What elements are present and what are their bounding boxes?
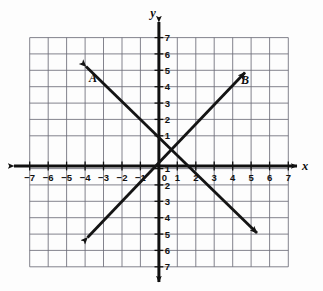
y-tick-label: 2 (165, 114, 170, 125)
x-tick-label: 5 (248, 172, 254, 183)
x-tick-label: 4 (230, 172, 236, 183)
x-tick-label: 6 (267, 172, 272, 183)
x-tick-label: −2 (117, 172, 128, 183)
y-axis-label: y (148, 6, 156, 20)
x-tick-label: −3 (98, 172, 109, 183)
x-tick-label: −7 (24, 172, 35, 183)
y-tick-label: 6 (165, 245, 170, 256)
y-tick-label: 1 (165, 130, 171, 141)
y-tick-label: 6 (165, 49, 170, 60)
x-tick-label: −4 (80, 172, 92, 183)
line-b-label: B (240, 73, 249, 87)
x-tick-label: 7 (286, 172, 291, 183)
x-tick-label: −5 (61, 172, 73, 183)
y-tick-label: 7 (165, 261, 170, 272)
line-a-label: A (88, 71, 97, 85)
y-tick-label: 2 (165, 180, 170, 191)
x-axis-label: x (301, 159, 308, 173)
x-tick-label: −6 (43, 172, 54, 183)
y-tick-label: 5 (165, 229, 171, 240)
graph-canvas: −7 −6 −5 −4 −3 −2 −1 1 2 3 4 5 6 7 0 7 6… (0, 0, 323, 291)
x-tick-label: 1 (175, 172, 181, 183)
y-tick-label: 7 (165, 32, 170, 43)
y-tick-label: 4 (165, 81, 171, 92)
y-tick-label: 1 (165, 163, 171, 174)
y-tick-label: 4 (165, 212, 171, 223)
x-tick-label: 3 (212, 172, 217, 183)
y-tick-label: 3 (165, 98, 170, 109)
y-tick-label: 3 (165, 196, 170, 207)
coordinate-plane-figure: −7 −6 −5 −4 −3 −2 −1 1 2 3 4 5 6 7 0 7 6… (0, 0, 323, 291)
y-tick-label: 5 (165, 65, 171, 76)
